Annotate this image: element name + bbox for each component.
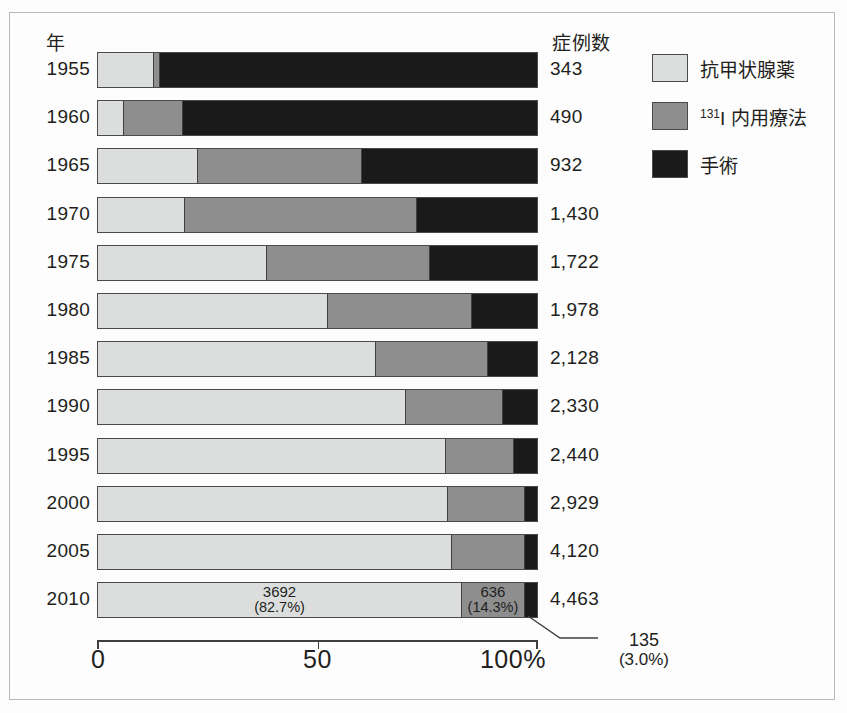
case-count-label: 2,330 <box>550 395 628 417</box>
bar-row <box>97 52 538 88</box>
bar-segment-surgery <box>471 294 537 328</box>
column-header-year: 年 <box>46 28 66 55</box>
case-count-label: 1,430 <box>550 203 628 225</box>
bar-segment-iodine <box>445 439 513 473</box>
bar-segment-drug <box>98 149 197 183</box>
plot-area: 3692(82.7%)636(14.3%) <box>97 52 538 632</box>
bar-segment-iodine <box>405 390 502 424</box>
bar-row <box>97 486 538 522</box>
stacked-bar <box>97 197 538 233</box>
stacked-bar <box>97 486 538 522</box>
bar-segment-iodine <box>184 198 417 232</box>
bar-segment-iodine <box>327 294 471 328</box>
year-label: 1975 <box>20 251 90 273</box>
legend-swatch-iodine <box>652 102 688 130</box>
bar-segment-surgery <box>502 390 537 424</box>
case-count-label: 490 <box>550 106 628 128</box>
legend-swatch-surgery <box>652 150 688 178</box>
bar-value-iodine: 636 <box>480 583 505 600</box>
bar-segment-drug: 3692(82.7%) <box>98 583 461 617</box>
bar-value-drug: 3692 <box>263 583 296 600</box>
bar-segment-iodine <box>123 101 182 135</box>
legend-item-iodine[interactable]: 131I 内用療法 <box>652 96 832 136</box>
legend-label-drug: 抗甲状腺薬 <box>700 55 795 82</box>
bar-row <box>97 197 538 233</box>
bar-percent-drug: (82.7%) <box>254 600 305 616</box>
case-count-label: 1,978 <box>550 299 628 321</box>
bar-segment-surgery <box>524 487 537 521</box>
legend-swatch-drug <box>652 54 688 82</box>
column-header-cases: 症例数 <box>552 28 611 55</box>
bar-segment-drug <box>98 294 327 328</box>
bar-segment-drug <box>98 390 405 424</box>
callout-percent: (3.0%) <box>598 650 690 669</box>
axis-tick-label: 50 <box>303 645 332 674</box>
bar-segment-surgery <box>182 101 537 135</box>
callout-label: 135 (3.0%) <box>598 630 690 669</box>
year-label: 1990 <box>20 395 90 417</box>
bar-segment-iodine <box>197 149 362 183</box>
stacked-bar <box>97 438 538 474</box>
case-count-label: 343 <box>550 58 628 80</box>
case-count-label: 2,929 <box>550 492 628 514</box>
year-label: 1985 <box>20 347 90 369</box>
stacked-bar <box>97 52 538 88</box>
bar-segment-drug <box>98 487 447 521</box>
bar-segment-surgery <box>416 198 537 232</box>
case-count-label: 2,128 <box>550 347 628 369</box>
legend-label-iodine-main: I 内用療法 <box>720 108 807 129</box>
bar-row <box>97 245 538 281</box>
year-label: 1970 <box>20 203 90 225</box>
bar-segment-surgery <box>159 53 537 87</box>
legend-label-iodine: 131I 内用療法 <box>700 103 807 130</box>
year-label: 1955 <box>20 58 90 80</box>
axis-tick-label: 100% <box>480 645 546 674</box>
bar-value-label-drug: 3692(82.7%) <box>254 584 305 616</box>
bar-row <box>97 534 538 570</box>
bar-segment-drug <box>98 439 445 473</box>
case-count-label: 932 <box>550 154 628 176</box>
case-count-label: 1,722 <box>550 251 628 273</box>
legend-item-surgery[interactable]: 手術 <box>652 144 832 184</box>
case-count-label: 4,463 <box>550 588 628 610</box>
stacked-bar: 3692(82.7%)636(14.3%) <box>97 582 538 618</box>
stacked-bar <box>97 389 538 425</box>
bar-segment-iodine <box>447 487 524 521</box>
year-label: 1995 <box>20 444 90 466</box>
year-label: 1965 <box>20 154 90 176</box>
year-label: 2010 <box>20 588 90 610</box>
bar-row: 3692(82.7%)636(14.3%) <box>97 582 538 618</box>
bar-segment-drug <box>98 198 184 232</box>
legend: 抗甲状腺薬 131I 内用療法 手術 <box>652 48 832 192</box>
bar-row <box>97 438 538 474</box>
bar-row <box>97 148 538 184</box>
legend-label-surgery: 手術 <box>700 151 738 178</box>
bar-row <box>97 100 538 136</box>
bar-percent-iodine: (14.3%) <box>468 600 519 616</box>
bar-row <box>97 341 538 377</box>
bar-segment-drug <box>98 535 451 569</box>
bar-segment-surgery <box>361 149 537 183</box>
case-count-label: 4,120 <box>550 540 628 562</box>
chart-figure: 年 症例数 3692(82.7%)636(14.3%) 135 (3.0%) 抗… <box>0 0 847 713</box>
axis-tick-label: 0 <box>91 645 105 674</box>
year-label: 1980 <box>20 299 90 321</box>
year-label: 2000 <box>20 492 90 514</box>
bar-segment-drug <box>98 53 153 87</box>
stacked-bar <box>97 245 538 281</box>
bar-segment-drug <box>98 246 266 280</box>
bar-segment-drug <box>98 101 123 135</box>
bar-row <box>97 389 538 425</box>
year-label: 1960 <box>20 106 90 128</box>
case-count-label: 2,440 <box>550 444 628 466</box>
stacked-bar <box>97 100 538 136</box>
bar-row <box>97 293 538 329</box>
bar-segment-surgery <box>513 439 537 473</box>
year-label: 2005 <box>20 540 90 562</box>
stacked-bar <box>97 293 538 329</box>
legend-label-iodine-superscript: 131 <box>700 106 720 120</box>
bar-segment-iodine: 636(14.3%) <box>461 583 524 617</box>
callout-value: 135 <box>629 630 659 650</box>
bar-value-label-iodine: 636(14.3%) <box>468 584 519 616</box>
legend-item-drug[interactable]: 抗甲状腺薬 <box>652 48 832 88</box>
